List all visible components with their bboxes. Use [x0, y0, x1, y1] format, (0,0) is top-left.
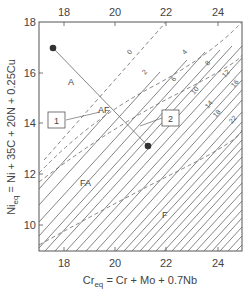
- region-label-a: A: [68, 77, 74, 87]
- x-tick-20: 20: [109, 257, 121, 269]
- iso-label-4: 4: [181, 48, 189, 56]
- iso-label-2: 2: [141, 68, 149, 76]
- iso-label-6: 6: [170, 75, 178, 83]
- iso-label-12: 12: [221, 68, 231, 79]
- top-tick-18: 18: [58, 6, 70, 18]
- box-2-label: 2: [168, 114, 173, 124]
- top-tick-20: 20: [109, 6, 121, 18]
- iso-label-14: 14: [204, 99, 214, 110]
- x-tick-24: 24: [212, 257, 224, 269]
- x-tick-22: 22: [160, 257, 172, 269]
- region-label-f: F: [162, 210, 168, 220]
- plot-lines: [39, 22, 242, 251]
- constitution-diagram: 1 2 A AF FA F 0 2 4 6 8 10 12 14 16 18 2…: [0, 0, 250, 293]
- x-axis-title: Creq = Cr + Mo + 0.7Nb: [83, 274, 197, 289]
- y-tick-16: 16: [24, 67, 36, 79]
- point-1-marker: [50, 45, 57, 52]
- box-2-leader: [140, 118, 162, 126]
- iso-label-16: 16: [230, 78, 240, 89]
- iso-label-18: 18: [212, 108, 222, 119]
- y-axis-title: Nieq = Ni + 35C + 20N + 0.25Cu: [5, 59, 20, 215]
- top-tick-24: 24: [212, 6, 224, 18]
- y-tick-10: 10: [24, 219, 36, 231]
- iso-label-22: 22: [228, 114, 238, 125]
- iso-label-0: 0: [126, 48, 134, 56]
- y-tick-14: 14: [24, 117, 36, 129]
- region-label-af: AF: [98, 105, 110, 115]
- y-tick-12: 12: [24, 168, 36, 180]
- iso-ferrite-number-labels: 0 2 4 6 8 10 12 14 16 18 22: [126, 48, 240, 125]
- box-1-label: 1: [54, 116, 59, 126]
- y-tick-18: 18: [24, 16, 36, 28]
- x-tick-18: 18: [58, 257, 70, 269]
- top-tick-22: 22: [160, 6, 172, 18]
- point-2-marker: [145, 143, 152, 150]
- region-label-fa: FA: [80, 178, 91, 188]
- box-1-leader: [66, 112, 100, 120]
